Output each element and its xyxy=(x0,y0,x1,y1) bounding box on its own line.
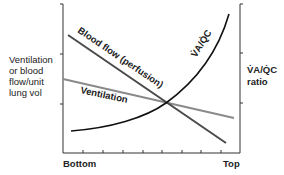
va-qc-label: V̇A/Q̇C xyxy=(188,28,213,59)
x-axis xyxy=(63,150,240,153)
ventilation-label: Ventilation xyxy=(80,84,129,105)
x-axis-label-bottom: Bottom xyxy=(63,158,96,169)
right-y-axis-label: V̇A/Q̇C ratio xyxy=(247,64,284,88)
x-axis-label-top: Top xyxy=(223,158,240,169)
blood-flow-label: Blood flow (perfusion) xyxy=(76,25,166,90)
right-y-axis xyxy=(240,4,243,153)
left-y-axis-label: Ventilation or blood flow/unit lung vol xyxy=(9,54,61,98)
